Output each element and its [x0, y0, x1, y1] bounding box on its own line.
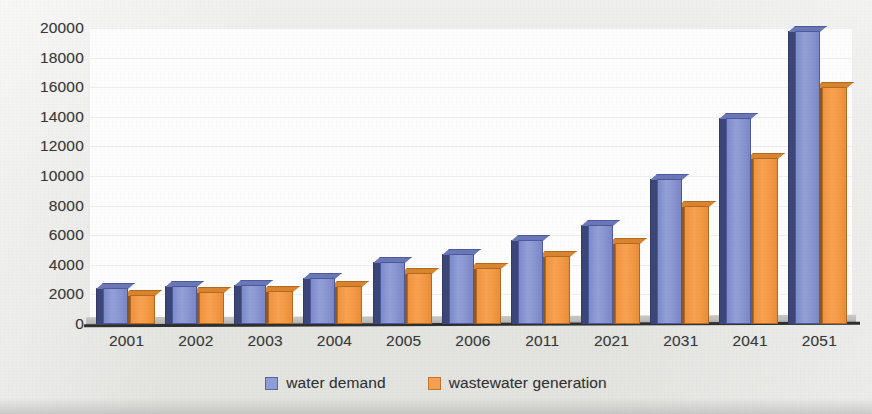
x-axis-tick-label: 2002	[178, 332, 213, 350]
bar-wastewater-generation	[615, 243, 640, 324]
y-axis-tick-label: 18000	[0, 49, 84, 67]
y-axis-tick-label: 16000	[0, 78, 84, 96]
bar-front-face	[241, 285, 266, 324]
bar-front-face	[310, 278, 335, 324]
chart-legend: water demand wastewater generation	[0, 374, 872, 392]
x-axis-tick-label: 2006	[455, 332, 490, 350]
bar-side-face	[234, 285, 241, 324]
bar-wastewater-generation	[684, 206, 709, 324]
x-axis-tick-label: 2005	[386, 332, 421, 350]
bar-front-face	[657, 179, 682, 324]
bar-side-face	[303, 278, 310, 324]
bar-group	[367, 28, 436, 324]
bar-group	[506, 28, 575, 324]
x-axis-tick-label: 2031	[663, 332, 698, 350]
bar-side-face	[788, 31, 795, 324]
y-axis-tick-label: 0	[0, 315, 84, 333]
bar-water-demand	[103, 288, 128, 324]
bar-front-face	[726, 118, 751, 324]
orange-square-swatch-icon	[428, 377, 441, 390]
bar-wastewater-generation	[822, 87, 847, 324]
bar-group	[229, 28, 298, 324]
bar-water-demand	[518, 240, 543, 324]
y-axis-tick-label: 4000	[0, 256, 84, 274]
bar-group	[783, 28, 852, 324]
legend-item-water-demand: water demand	[265, 374, 385, 392]
bar-wastewater-generation	[476, 268, 501, 324]
bar-wastewater-generation	[337, 286, 362, 324]
bars-layer	[90, 28, 852, 324]
legend-item-wastewater-generation: wastewater generation	[428, 374, 607, 392]
bar-side-face	[719, 118, 726, 324]
y-axis-tick-label: 2000	[0, 285, 84, 303]
x-axis-tick-label: 2004	[317, 332, 352, 350]
bar-wastewater-generation	[753, 158, 778, 324]
bar-wastewater-generation	[545, 256, 570, 324]
y-axis-tick-label: 8000	[0, 197, 84, 215]
x-axis-tick-label: 2041	[732, 332, 767, 350]
bar-side-face	[96, 288, 103, 324]
x-axis: 2001200220032004200520062011202120312041…	[90, 332, 852, 360]
blue-square-swatch-icon	[265, 377, 278, 390]
bar-front-face	[615, 243, 640, 324]
bar-front-face	[753, 158, 778, 324]
bar-front-face	[684, 206, 709, 324]
bar-group	[644, 28, 713, 324]
bar-front-face	[268, 291, 293, 324]
bar-water-demand	[380, 262, 405, 324]
y-axis: 2000018000160001400012000100008000600040…	[0, 28, 84, 324]
bar-front-face	[130, 295, 155, 324]
legend-label-wastewater-generation: wastewater generation	[449, 374, 607, 392]
bar-wastewater-generation	[130, 295, 155, 324]
bar-group	[159, 28, 228, 324]
bar-group	[436, 28, 505, 324]
bar-side-face	[650, 179, 657, 324]
bar-wastewater-generation	[199, 292, 224, 324]
y-axis-tick-label: 20000	[0, 19, 84, 37]
bar-water-demand	[241, 285, 266, 324]
bar-water-demand	[657, 179, 682, 324]
bar-front-face	[545, 256, 570, 324]
bar-front-face	[795, 31, 820, 324]
bar-wastewater-generation	[407, 273, 432, 324]
bar-wastewater-generation	[268, 291, 293, 324]
bar-group	[713, 28, 782, 324]
legend-label-water-demand: water demand	[286, 374, 385, 392]
x-axis-tick-label: 2051	[802, 332, 837, 350]
bar-front-face	[380, 262, 405, 324]
bar-front-face	[449, 254, 474, 324]
bar-water-demand	[310, 278, 335, 324]
bar-front-face	[337, 286, 362, 324]
bar-water-demand	[795, 31, 820, 324]
bar-front-face	[199, 292, 224, 324]
x-axis-tick-label: 2021	[594, 332, 629, 350]
bar-side-face	[373, 262, 380, 324]
bar-water-demand	[449, 254, 474, 324]
x-axis-tick-label: 2001	[109, 332, 144, 350]
bar-water-demand	[588, 225, 613, 324]
bar-side-face	[581, 225, 588, 324]
bar-group	[575, 28, 644, 324]
y-axis-tick-label: 12000	[0, 137, 84, 155]
bar-water-demand	[172, 286, 197, 324]
bar-front-face	[822, 87, 847, 324]
chart-page: 2000018000160001400012000100008000600040…	[0, 0, 872, 414]
x-axis-tick-label: 2011	[525, 332, 559, 350]
y-axis-tick-label: 6000	[0, 226, 84, 244]
bar-group	[298, 28, 367, 324]
bar-front-face	[172, 286, 197, 324]
y-axis-tick-label: 10000	[0, 167, 84, 185]
y-axis-tick-label: 14000	[0, 108, 84, 126]
bar-front-face	[407, 273, 432, 324]
paper-edge-shading	[0, 398, 872, 414]
x-axis-tick-label: 2003	[248, 332, 283, 350]
bar-front-face	[103, 288, 128, 324]
bar-side-face	[165, 286, 172, 324]
bar-side-face	[442, 254, 449, 324]
bar-front-face	[476, 268, 501, 324]
bar-water-demand	[726, 118, 751, 324]
bar-side-face	[511, 240, 518, 324]
bar-front-face	[518, 240, 543, 324]
bar-front-face	[588, 225, 613, 324]
bar-group	[90, 28, 159, 324]
